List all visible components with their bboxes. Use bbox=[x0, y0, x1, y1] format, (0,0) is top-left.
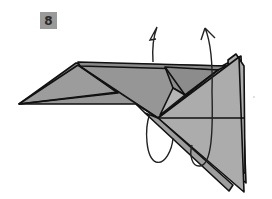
origami-diagram bbox=[0, 0, 272, 199]
rotate-arrow-left bbox=[150, 27, 157, 62]
